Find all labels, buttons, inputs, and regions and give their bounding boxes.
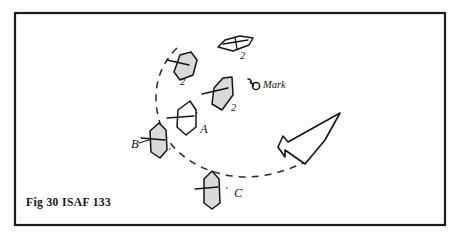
figure-container: 222'A'B'C Mark Fig 30 ISAF 133 [0,0,461,243]
boat-label: 2 [240,50,246,61]
boat-label: A [199,122,208,136]
boat-hull [204,171,220,209]
boat-hull [174,52,197,80]
boat-tick-mark: ' [195,109,198,121]
wind-direction-arrow [278,113,340,164]
boat-b: 'B [131,123,171,158]
boat-label: 2 [231,102,237,113]
figure-caption: Fig 30 ISAF 133 [26,196,111,208]
boat-label: C [234,186,243,200]
boat-num-2-0: 2 [218,36,253,61]
mark-group: Mark [248,79,286,90]
boat-a: 'A [167,101,208,136]
boats-group: 222'A'B'C [131,36,253,209]
boat-num-2-1: 2 [167,52,197,87]
boat-num-2-2: 2 [202,77,237,113]
boat-label: B [131,137,139,151]
boat-tick-mark: ' [168,145,171,157]
buoy-flag-icon [248,79,253,86]
mark-label: Mark [262,79,286,90]
boat-c: 'C [195,171,243,209]
boat-hull [212,77,233,110]
boat-hull [177,101,196,135]
boat-tick-mark: ' [225,184,228,196]
boat-label: 2 [180,76,186,87]
